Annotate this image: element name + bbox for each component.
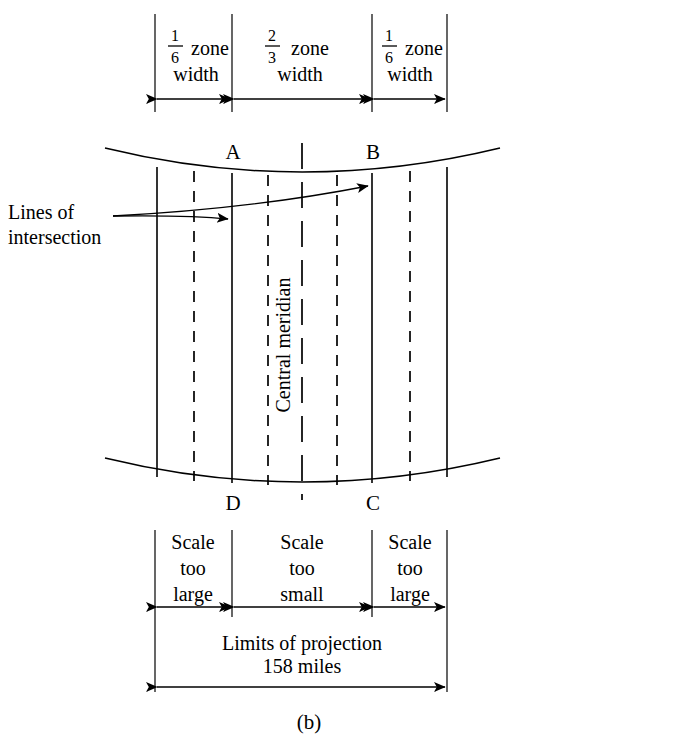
top-zone-2-numerator: 2 <box>268 27 276 44</box>
top-zone-2-denominator: 3 <box>268 49 276 66</box>
top-zone-label-3: 1 6 zone width <box>382 27 443 85</box>
lines-of-intersection-annotation: Lines of intersection <box>8 200 138 250</box>
top-zone-1-line1: zone <box>191 37 229 59</box>
annotation-line-1: Lines of <box>8 200 138 225</box>
top-zone-2-line1: zone <box>291 37 329 59</box>
point-label-A: A <box>225 140 241 164</box>
top-zone-1-numerator: 1 <box>171 27 179 44</box>
bottom-zone-label-1: Scale too large <box>171 531 214 606</box>
bottom-zone-label-3: Scale too large <box>388 531 431 606</box>
top-dimension-group: 1 6 zone width 2 3 zone width 1 6 zone w… <box>155 14 447 112</box>
bottom-zone-2-line1: Scale <box>280 531 323 553</box>
limits-label-line2: 158 miles <box>263 655 342 677</box>
leader-line-to-B <box>113 186 368 216</box>
point-label-C: C <box>366 491 380 515</box>
top-zone-3-line1: zone <box>405 37 443 59</box>
bottom-zone-1-line1: Scale <box>171 531 214 553</box>
annotation-line-2: intersection <box>8 225 138 250</box>
projection-figure: 1 6 zone width 2 3 zone width 1 6 zone w… <box>0 0 678 740</box>
figure-caption: (b) <box>297 710 322 734</box>
top-zone-label-2: 2 3 zone width <box>265 27 329 85</box>
central-meridian-label: Central meridian <box>272 278 294 413</box>
limits-dimension-group: Limits of projection 158 miles <box>155 617 447 692</box>
point-label-B: B <box>366 140 380 164</box>
bottom-zone-2-line2: too <box>289 557 315 579</box>
bottom-dimension-group: Scale too large Scale too small Scale to… <box>155 530 447 617</box>
top-zone-3-line2: width <box>387 63 433 85</box>
limits-label-line1: Limits of projection <box>222 632 382 655</box>
bottom-zone-3-line3: large <box>390 583 430 606</box>
annotation-leaders-group <box>113 186 368 219</box>
bottom-zone-2-line3: small <box>280 583 324 605</box>
top-zone-1-line2: width <box>173 63 219 85</box>
projection-body-group: Central meridian A B D C <box>105 140 500 515</box>
projection-diagram-svg: 1 6 zone width 2 3 zone width 1 6 zone w… <box>0 0 678 740</box>
bottom-zone-1-line3: large <box>173 583 213 606</box>
top-zone-3-numerator: 1 <box>385 27 393 44</box>
top-zone-2-line2: width <box>277 63 323 85</box>
bottom-zone-1-line2: too <box>180 557 206 579</box>
bottom-zone-label-2: Scale too small <box>280 531 324 605</box>
top-zone-label-1: 1 6 zone width <box>168 27 229 85</box>
bottom-zone-3-line2: too <box>397 557 423 579</box>
point-label-D: D <box>225 491 240 515</box>
bottom-zone-3-line1: Scale <box>388 531 431 553</box>
